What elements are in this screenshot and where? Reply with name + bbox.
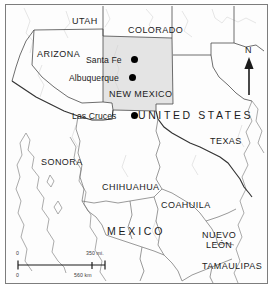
compass-north-arrow: N xyxy=(238,45,260,97)
scale-bar-km-max: 560 km xyxy=(74,272,92,278)
city-marker-las-cruces xyxy=(131,112,138,119)
new-mexico-highlight-fill xyxy=(103,36,173,111)
scale-bar-km-zero-text: 0 xyxy=(16,272,19,278)
scale-bar-miles-zero: 0 xyxy=(16,250,19,256)
scale-bar-miles-max: 350 mi. xyxy=(86,250,104,256)
scale-bar-graphic xyxy=(16,258,118,272)
scale-bar-miles-max-text: 350 mi. xyxy=(86,250,104,256)
compass-north-label: N xyxy=(245,45,252,55)
compass-north-label-text: N xyxy=(245,45,252,55)
city-marker-albuquerque xyxy=(129,74,136,81)
map-figure: UNITED STATES MEXICO UTAH COLORADO ARIZO… xyxy=(0,0,273,289)
scale-bar: 0 350 mi. 0 560 km xyxy=(16,250,118,282)
scale-bar-km-max-text: 560 km xyxy=(74,272,92,278)
scale-bar-km-zero: 0 xyxy=(16,272,19,278)
map-frame: UNITED STATES MEXICO UTAH COLORADO ARIZO… xyxy=(5,4,268,284)
map-geometry xyxy=(6,5,268,284)
city-marker-santa-fe xyxy=(131,56,138,63)
scale-bar-miles-zero-text: 0 xyxy=(16,250,19,256)
